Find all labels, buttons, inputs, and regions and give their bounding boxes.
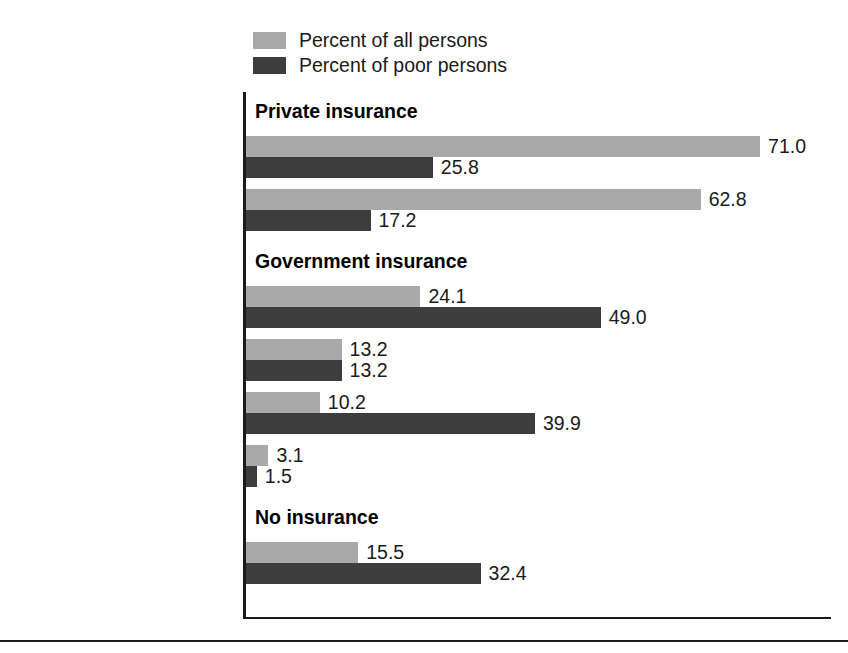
bar-all [246, 339, 342, 360]
bar-poor [246, 307, 601, 328]
bar-value-label: 32.4 [489, 563, 527, 584]
bar-chart-figure: Percent of all personsPercent of poor pe… [0, 0, 848, 653]
bar-poor [246, 210, 371, 231]
bar-all [246, 286, 420, 307]
bar-value-label: 62.8 [709, 189, 747, 210]
legend-item: Percent of poor persons [253, 53, 507, 78]
bar-value-label: 17.2 [379, 210, 417, 231]
legend-item-label: Percent of poor persons [299, 56, 507, 76]
bar-all [246, 392, 320, 413]
bar-value-label: 13.2 [350, 360, 388, 381]
legend-item: Percent of all persons [253, 28, 507, 53]
bar-value-label: 39.9 [543, 413, 581, 434]
horizontal-baseline [243, 617, 831, 619]
bar-poor [246, 413, 535, 434]
bar-all [246, 542, 358, 563]
bar-poor [246, 360, 342, 381]
chart-legend: Percent of all personsPercent of poor pe… [253, 28, 507, 78]
bar-poor [246, 466, 257, 487]
bar-value-label: 71.0 [768, 136, 806, 157]
bar-value-label: 10.2 [328, 392, 366, 413]
bottom-divider-rule [0, 640, 848, 642]
bar-all [246, 136, 760, 157]
legend-item-label: Percent of all persons [299, 31, 488, 51]
bar-all [246, 189, 701, 210]
bar-value-label: 24.1 [428, 286, 466, 307]
plot-area: Private insuranceAny private plan71.025.… [243, 92, 848, 619]
bar-all [246, 445, 268, 466]
bar-value-label: 1.5 [265, 466, 292, 487]
section-heading: No insurance [255, 506, 379, 529]
bar-value-label: 3.1 [276, 445, 303, 466]
bar-poor [246, 563, 481, 584]
bar-value-label: 13.2 [350, 339, 388, 360]
legend-swatch-icon [253, 32, 286, 49]
bar-poor [246, 157, 433, 178]
bar-value-label: 25.8 [441, 157, 479, 178]
legend-swatch-icon [253, 57, 286, 74]
section-heading: Government insurance [255, 250, 467, 273]
section-heading: Private insurance [255, 100, 418, 123]
bar-value-label: 15.5 [366, 542, 404, 563]
bar-value-label: 49.0 [609, 307, 647, 328]
